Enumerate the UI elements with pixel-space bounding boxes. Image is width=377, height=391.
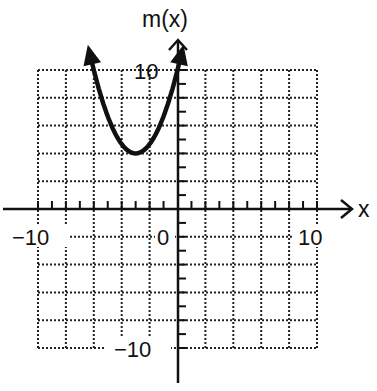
coordinate-graph: m(x) x −10 0 10 10 −10 <box>0 0 377 391</box>
curve-arrow-left-icon <box>84 45 102 67</box>
x-zero-label: 0 <box>157 225 169 250</box>
y-max-label: 10 <box>134 59 158 84</box>
x-min-label: −10 <box>12 225 49 250</box>
x-axis-label: x <box>358 196 370 222</box>
x-max-label: 10 <box>298 225 322 250</box>
y-min-label: −10 <box>114 337 151 362</box>
y-axis-label: m(x) <box>142 6 188 32</box>
